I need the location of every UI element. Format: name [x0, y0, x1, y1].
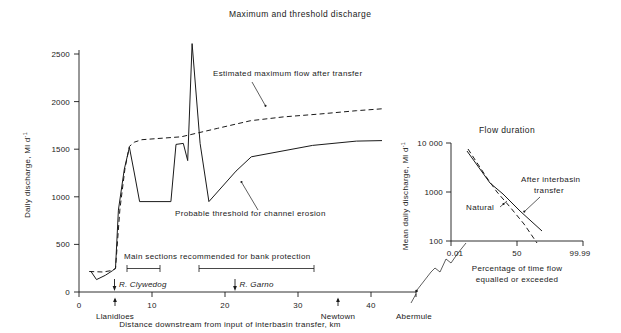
main-x-tick-20: 20 [220, 301, 230, 310]
inset-x-tick-min: 0.01 [447, 249, 464, 258]
main-x-ticks [79, 292, 371, 297]
main-y-axis-label-text: Daily discharge, Ml d [23, 137, 32, 218]
inset-series-after-transfer [467, 151, 542, 231]
inset-y-ticks [446, 143, 451, 241]
main-y-tick-2000: 2000 [51, 98, 70, 107]
inset-x-axis-label-line1: Percentage of time flow [472, 264, 563, 273]
inset-chart-title: Flow duration [479, 125, 535, 135]
place-label-llanidloes: Llanidloes [96, 312, 134, 321]
series-probable-threshold [91, 44, 382, 280]
main-y-ticks [74, 54, 79, 292]
leader-dot-after-transfer [523, 211, 525, 213]
figure-page: Maximum and threshold discharge 0 500 10… [0, 0, 621, 333]
leader-dot-natural [502, 203, 504, 205]
inset-y-tick-100: 100 [429, 237, 443, 246]
annotation-dashed-curve: Estimated maximum flow after transfer [213, 69, 362, 78]
annotation-bank-protection: Main sections recommended for bank prote… [124, 252, 311, 261]
leader-dot-solid-curve [240, 181, 242, 183]
place-marker-llanidloes: Llanidloes [96, 298, 134, 322]
main-y-axis-label: Daily discharge, Ml d-1 [22, 132, 33, 218]
inset-y-axis-label: Mean daily discharge, Ml d-1 [400, 142, 411, 250]
river-label-garno: R. Garno [240, 280, 274, 289]
series-estimated-maximum-flow [89, 109, 382, 272]
main-y-tick-500: 500 [56, 240, 70, 249]
scientific-figure: Maximum and threshold discharge 0 500 10… [0, 0, 621, 333]
place-label-newtown: Newtown [321, 312, 355, 321]
inset-x-axis-label-line2: equalled or exceeded [476, 275, 559, 284]
main-y-tick-0: 0 [65, 288, 70, 297]
main-y-axis-label-group: Daily discharge, Ml d-1 [22, 132, 33, 218]
river-label-clywedog: R. Clywedog [119, 280, 167, 289]
inset-x-tick-max: 99.99 [569, 249, 590, 258]
main-x-tick-40: 40 [366, 301, 376, 310]
main-y-tick-1500: 1500 [51, 145, 70, 154]
river-marker-garno: R. Garno [233, 279, 274, 291]
inset-label-natural: Natural [466, 203, 494, 212]
inset-y-axis-label-group: Mean daily discharge, Ml d-1 [400, 142, 411, 250]
annotation-solid-curve: Probable threshold for channel erosion [175, 209, 326, 218]
inset-y-axis-label-exponent: -1 [400, 142, 406, 148]
place-marker-abermule: Abermule [396, 292, 432, 321]
river-marker-clywedog: R. Clywedog [113, 279, 167, 291]
main-y-axis-label-exponent: -1 [22, 132, 28, 138]
main-y-tick-1000: 1000 [51, 193, 70, 202]
main-y-tick-2500: 2500 [51, 50, 70, 59]
leader-dot-dashed-curve [264, 105, 266, 107]
inset-label-after-transfer-line1: After interbasin [521, 175, 580, 184]
leader-line-after-transfer [525, 197, 540, 211]
inset-y-tick-1000: 1000 [424, 188, 443, 197]
main-x-tick-0: 0 [77, 301, 82, 310]
leader-line-dashed-curve [252, 82, 265, 105]
main-x-tick-10: 10 [147, 301, 157, 310]
main-x-axis-label: Distance downstream from input of interb… [119, 320, 341, 329]
inset-y-axis-label-text: Mean daily discharge, Ml d [401, 147, 410, 250]
inset-x-ticks [451, 241, 583, 246]
inset-x-tick-mid: 50 [512, 249, 522, 258]
bracket-garno [199, 265, 314, 272]
place-marker-newtown: Newtown [321, 298, 355, 322]
main-chart-title: Maximum and threshold discharge [229, 9, 371, 19]
place-label-abermule: Abermule [396, 312, 432, 321]
main-x-tick-30: 30 [293, 301, 303, 310]
inset-series-natural [468, 149, 537, 243]
leader-line-solid-curve [242, 183, 258, 210]
bracket-clywedog [127, 265, 160, 272]
inset-y-tick-10000: 10 000 [417, 139, 443, 148]
inset-label-after-transfer-line2: transfer [534, 186, 564, 195]
